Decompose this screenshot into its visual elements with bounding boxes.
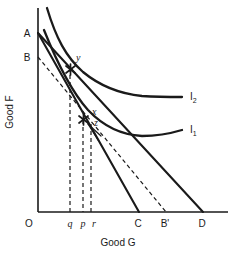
- curve-label-I2: I2: [190, 91, 197, 104]
- x-axis-label-D: D: [198, 218, 205, 229]
- y-axis-label-A: A: [24, 28, 31, 39]
- budget-line-B-Bprime: [38, 57, 166, 212]
- y-axis-title: Good F: [4, 95, 15, 128]
- indifference-curve-I1: [44, 30, 182, 136]
- indifference-curve-figure: A B O q p r C B' D y x z I2 I1 Good G Go…: [0, 0, 237, 259]
- x-axis-label-Bprime: B': [161, 218, 170, 229]
- x-axis-label-q: q: [68, 218, 73, 229]
- point-label-y: y: [75, 52, 81, 63]
- curve-label-I1: I1: [190, 124, 197, 137]
- x-axis-label-p: p: [80, 218, 86, 229]
- x-axis-title: Good G: [100, 237, 135, 248]
- point-label-z: z: [93, 117, 98, 128]
- x-axis-label-C: C: [134, 218, 141, 229]
- point-label-x: x: [91, 106, 97, 117]
- origin-label: O: [25, 218, 33, 229]
- budget-line-AD: [38, 33, 203, 212]
- y-axis-label-B: B: [24, 52, 31, 63]
- x-axis-label-r: r: [92, 218, 96, 229]
